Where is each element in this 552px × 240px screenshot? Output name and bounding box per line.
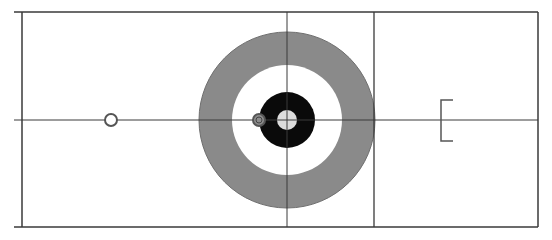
curling-sheet-diagram <box>0 0 552 240</box>
curling-sheet-canvas <box>0 0 552 240</box>
curling-stone-icon <box>105 114 117 126</box>
curling-stone-icon <box>253 114 265 126</box>
